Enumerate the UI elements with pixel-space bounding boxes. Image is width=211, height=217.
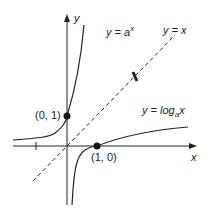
log-label-var: x [179, 104, 185, 116]
log-curve [72, 127, 188, 205]
identity-line-label: y = x [163, 25, 187, 36]
point-log-marker [94, 143, 101, 150]
point-log-label: (1, 0) [91, 152, 117, 163]
diagram-canvas: y x y = ax y = x y = logax (0, 1) (1, 0) [0, 0, 211, 217]
point-exp-label: (0, 1) [35, 110, 61, 121]
x-axis-label: x [191, 152, 197, 163]
y-axis-label: y [74, 13, 80, 24]
log-curve-label: y = logax [142, 105, 185, 119]
exp-curve [13, 25, 84, 140]
point-exp-marker [64, 113, 71, 120]
x-axis-arrow-icon [189, 143, 197, 149]
exp-curve-label: y = ax [106, 25, 134, 38]
y-axis-arrow-icon [64, 14, 70, 22]
reflection-marker [133, 72, 137, 81]
exp-label-base: y = a [106, 26, 130, 38]
log-label-base: y = log [142, 104, 175, 116]
exp-label-exponent: x [130, 24, 134, 33]
